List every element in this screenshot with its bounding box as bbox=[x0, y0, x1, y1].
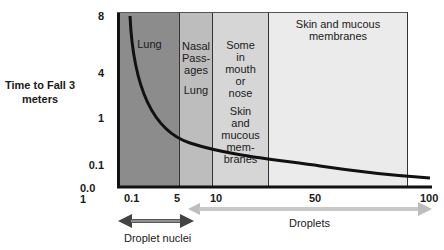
droplets-label: Droplets bbox=[289, 217, 330, 229]
x-tick-10: 10 bbox=[210, 192, 222, 204]
droplet-nuclei-label: Droplet nuclei bbox=[124, 232, 191, 244]
droplet-nuclei-arrow-right-icon bbox=[180, 214, 194, 228]
droplets-arrow-right-icon bbox=[418, 202, 432, 216]
x-tick-5: 5 bbox=[174, 192, 180, 204]
x-tick-50: 50 bbox=[309, 192, 321, 204]
plot-svg bbox=[0, 0, 444, 250]
droplet-nuclei-arrow-left-icon bbox=[118, 214, 132, 228]
x-tick-100: 100 bbox=[420, 192, 438, 204]
settling-time-curve bbox=[130, 16, 430, 178]
droplets-arrow-left-icon bbox=[188, 203, 200, 215]
x-tick-0.1: 0.1 bbox=[124, 192, 139, 204]
